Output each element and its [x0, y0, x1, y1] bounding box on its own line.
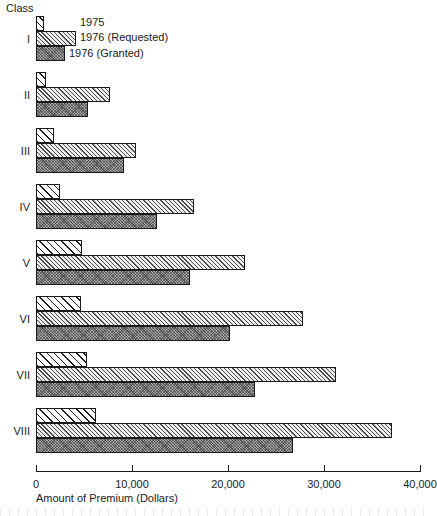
bar-class-iii-requested [36, 143, 136, 158]
bar-class-vi-requested [36, 311, 303, 326]
category-label-iv: IV [0, 201, 30, 213]
bar-class-vii-granted [36, 382, 255, 397]
bar-class-i-1975 [36, 16, 44, 31]
tick-mark-30000 [324, 465, 325, 472]
bar-class-viii-requested [36, 423, 392, 438]
tick-mark-40000 [420, 465, 421, 472]
bar-class-ii-1975 [36, 72, 46, 87]
tick-label-40000: 40,000 [403, 478, 437, 490]
bar-class-iv-granted [36, 214, 157, 229]
tick-mark-0 [36, 465, 37, 472]
category-label-i: I [0, 33, 30, 45]
bar-class-ii-requested [36, 87, 110, 102]
tick-label-10000: 10,000 [115, 478, 149, 490]
bar-class-v-requested [36, 255, 245, 270]
category-label-vii: VII [0, 369, 30, 381]
class-axis-header: Class [6, 2, 34, 14]
bar-class-v-granted [36, 270, 190, 285]
bar-class-vi-1975 [36, 296, 81, 311]
scan-artifact [0, 508, 429, 516]
x-axis-title: Amount of Premium (Dollars) [36, 492, 178, 504]
legend-label-1976-granted: 1976 (Granted) [69, 47, 144, 59]
bar-class-iv-1975 [36, 184, 60, 199]
bar-class-i-requested [36, 31, 76, 46]
bar-class-iv-requested [36, 199, 194, 214]
bar-class-vii-1975 [36, 352, 87, 367]
tick-mark-20000 [228, 465, 229, 472]
bar-class-viii-granted [36, 438, 293, 453]
tick-label-0: 0 [33, 478, 39, 490]
category-label-vi: VI [0, 313, 30, 325]
bar-class-v-1975 [36, 240, 82, 255]
tick-mark-10000 [132, 465, 133, 472]
category-label-iii: III [0, 145, 30, 157]
tick-label-20000: 20,000 [211, 478, 245, 490]
category-label-v: V [0, 257, 30, 269]
bar-class-vii-requested [36, 367, 336, 382]
legend-label-1975: 1975 [80, 16, 104, 28]
bar-class-iii-granted [36, 158, 124, 173]
category-label-ii: II [0, 89, 30, 101]
legend-label-1976-requested: 1976 (Requested) [80, 31, 168, 43]
tick-label-30000: 30,000 [307, 478, 341, 490]
bar-class-i-granted [36, 46, 65, 61]
bar-class-viii-1975 [36, 408, 96, 423]
bar-class-iii-1975 [36, 128, 54, 143]
category-label-viii: VIII [0, 425, 30, 437]
bar-class-vi-granted [36, 326, 230, 341]
bar-class-ii-granted [36, 102, 88, 117]
